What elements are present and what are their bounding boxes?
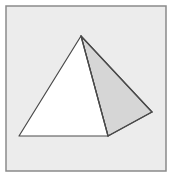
pyramid-diagram <box>0 0 172 177</box>
